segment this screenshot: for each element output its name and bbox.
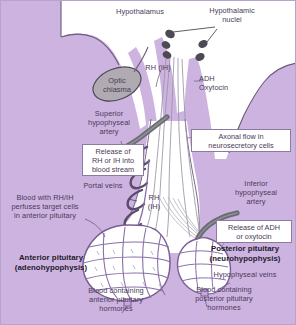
label-blood-posterior-hormones: Blood containing posterior pituitary hor… xyxy=(176,285,272,313)
label-rh-ih-top: RH (IH) xyxy=(136,63,180,72)
label-blood-anterior-hormones: Blood containing anterior pituitary horm… xyxy=(73,286,159,314)
label-blood-with-rh-ih: Blood with RH/IH perfuses target cells i… xyxy=(3,193,87,221)
label-hypophyseal-veins: Hypophyseal veins xyxy=(202,270,288,279)
label-portal-veins: Portal veins xyxy=(76,181,130,190)
pituitary-anatomy-figure: Hypothalamus Hypothalamic nuclei RH (IH)… xyxy=(0,0,296,325)
label-adh-oxytocin: ADH Oxytocin xyxy=(199,74,249,92)
label-rh-ih-stalk: RH (IH) xyxy=(141,193,167,211)
callout-release-adh: Release of ADH or oxytocin xyxy=(216,220,292,243)
label-inferior-hypophyseal-artery: Inferior hypophyseal artery xyxy=(220,179,292,207)
label-hypothalamic-nuclei: Hypothalamic nuclei xyxy=(197,6,267,24)
label-hypothalamus: Hypothalamus xyxy=(96,7,184,16)
label-posterior-pituitary: Posterior pituitary (neurohypophysis) xyxy=(193,244,296,264)
callout-axonal-flow: Axonal flow in neurosecretory cells xyxy=(191,129,291,152)
callout-release-rh-ih: Release of RH or IH into blood stream xyxy=(82,144,144,176)
label-superior-hypophyseal-artery: Superior hypophyseal artery xyxy=(71,109,147,137)
label-anterior-pituitary: Anterior pituitary (adenohypophysis) xyxy=(2,253,100,273)
label-optic-chiasma: Optic chiasma xyxy=(97,76,137,94)
